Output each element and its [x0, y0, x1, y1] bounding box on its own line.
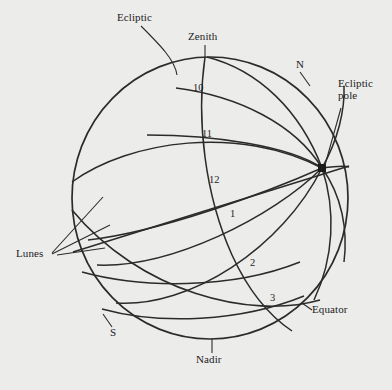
lune-number: 12	[209, 174, 220, 185]
ecliptic-pole-node	[318, 164, 326, 172]
label-ecliptic-pole-line2: pole	[338, 89, 357, 101]
meridian-a	[207, 57, 322, 168]
meridian-d	[88, 168, 322, 240]
label-north: N	[296, 59, 304, 71]
label-south: S	[110, 327, 116, 339]
lune-number: 1	[230, 208, 235, 219]
label-zenith: Zenith	[188, 31, 217, 43]
label-nadir: Nadir	[196, 354, 222, 366]
pole-right-branches	[314, 86, 349, 300]
lune-number: 2	[250, 257, 255, 268]
label-ecliptic-pole: Eclipticpole	[338, 78, 373, 101]
parallel-arcs	[72, 142, 322, 319]
lune-meridian-curves	[88, 57, 322, 331]
label-ecliptic: Ecliptic	[117, 12, 152, 24]
label-ecliptic-pole-line1: Ecliptic	[338, 77, 373, 89]
leader-equator	[302, 303, 312, 310]
label-equator: Equator	[312, 304, 348, 316]
parallel-upper	[72, 142, 322, 182]
label-lunes: Lunes	[16, 248, 43, 260]
sphere-outline	[72, 57, 348, 339]
lune-number: 10	[193, 82, 204, 93]
lune-number: 3	[270, 292, 275, 303]
leader-ecliptic-pole	[325, 108, 341, 165]
pole-branch-down2	[314, 168, 331, 300]
celestial-sphere-figure	[0, 0, 392, 390]
meridian-b	[176, 88, 322, 168]
meridian-c	[147, 135, 322, 168]
lune-number: 11	[202, 128, 212, 139]
leader-north	[300, 72, 310, 86]
